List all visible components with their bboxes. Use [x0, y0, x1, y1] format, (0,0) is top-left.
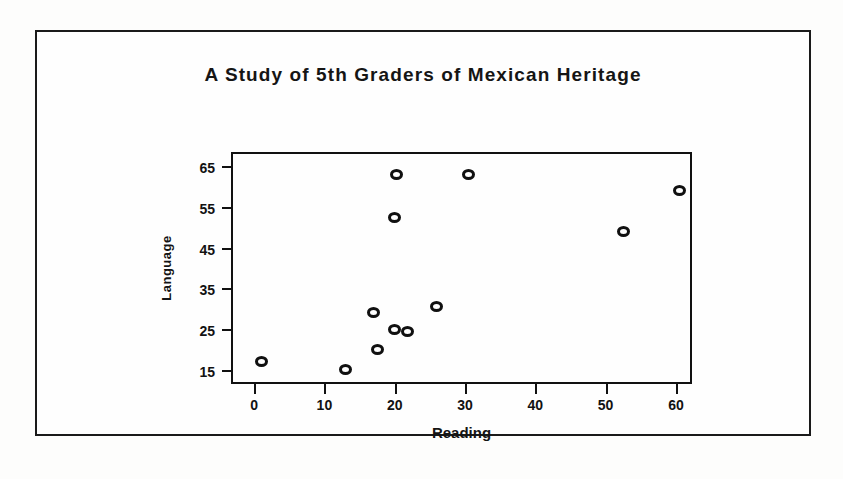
x-axis-tick — [676, 382, 678, 394]
x-axis-tick — [324, 382, 326, 394]
x-axis-tick — [465, 382, 467, 394]
y-axis-tick: 45 — [222, 248, 233, 250]
page-background: A Study of 5th Graders of Mexican Herita… — [0, 0, 843, 479]
data-point — [390, 169, 403, 180]
data-point — [462, 169, 475, 180]
data-point — [673, 185, 686, 196]
y-axis-tick: 15 — [222, 370, 233, 372]
x-axis-tick — [395, 382, 397, 394]
data-point — [388, 324, 401, 335]
y-axis-tick-label: 35 — [199, 282, 215, 298]
x-axis-title: Reading — [231, 424, 692, 441]
data-point — [339, 364, 352, 375]
data-point — [617, 226, 630, 237]
y-axis-tick: 25 — [222, 329, 233, 331]
y-axis-tick: 65 — [222, 166, 233, 168]
data-point — [371, 344, 384, 355]
y-axis-title: Language — [159, 235, 174, 300]
y-axis-tick-label: 45 — [199, 242, 215, 258]
y-axis-tick: 55 — [222, 207, 233, 209]
figure-frame: A Study of 5th Graders of Mexican Herita… — [35, 30, 811, 436]
data-point — [255, 356, 268, 367]
plot-area: 152535455565 0102030405060 — [231, 152, 692, 384]
x-axis-tick-label: 10 — [317, 397, 333, 413]
x-axis-tick-label: 30 — [457, 397, 473, 413]
data-point — [388, 212, 401, 223]
data-layer — [233, 154, 690, 382]
y-axis-tick-label: 55 — [199, 201, 215, 217]
x-axis-tick — [254, 382, 256, 394]
x-axis-tick-label: 20 — [387, 397, 403, 413]
chart-title: A Study of 5th Graders of Mexican Herita… — [37, 64, 809, 86]
x-axis-tick-label: 40 — [528, 397, 544, 413]
y-axis-tick-label: 65 — [199, 160, 215, 176]
x-axis-tick-label: 50 — [598, 397, 614, 413]
y-axis-tick-label: 15 — [199, 364, 215, 380]
y-axis-tick-label: 25 — [199, 323, 215, 339]
x-axis-tick-label: 60 — [668, 397, 684, 413]
x-axis-tick — [535, 382, 537, 394]
data-point — [367, 307, 380, 318]
x-axis-tick-label: 0 — [250, 397, 258, 413]
data-point — [430, 301, 443, 312]
data-point — [401, 326, 414, 337]
x-axis-tick — [606, 382, 608, 394]
y-axis-tick: 35 — [222, 288, 233, 290]
